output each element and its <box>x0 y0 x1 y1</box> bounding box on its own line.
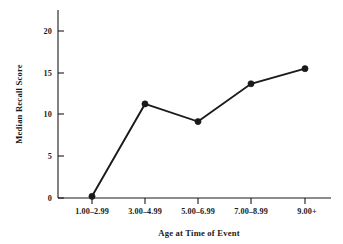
data-point-marker <box>302 66 308 72</box>
chart-figure: 20 15 10 5 0 1.00–2.99 3.00–4.99 5.00–6.… <box>0 0 343 244</box>
y-tick-label-5: 5 <box>48 152 52 161</box>
x-axis-title: Age at Time of Event <box>158 228 240 238</box>
x-tick-label-0: 1.00–2.99 <box>75 207 109 216</box>
x-tick-label-2: 5.00–6.99 <box>181 207 215 216</box>
y-axis-title: Median Recall Score <box>14 64 24 144</box>
y-tick-label-0: 0 <box>48 194 52 203</box>
y-tick-label-20: 20 <box>44 27 52 36</box>
data-point-marker <box>195 118 201 124</box>
x-tick-label-4: 9.00+ <box>297 207 317 216</box>
data-point-markers <box>89 66 308 200</box>
line-chart-canvas: 20 15 10 5 0 1.00–2.99 3.00–4.99 5.00–6.… <box>0 0 343 244</box>
data-point-marker <box>89 193 95 199</box>
data-point-marker <box>142 101 148 107</box>
y-tick-label-10: 10 <box>44 110 52 119</box>
data-point-marker <box>248 81 254 87</box>
x-tick-label-1: 3.00–4.99 <box>128 207 162 216</box>
y-tick-label-15: 15 <box>44 69 52 78</box>
data-series-line <box>92 69 305 197</box>
x-tick-label-3: 7.00–8.99 <box>234 207 268 216</box>
